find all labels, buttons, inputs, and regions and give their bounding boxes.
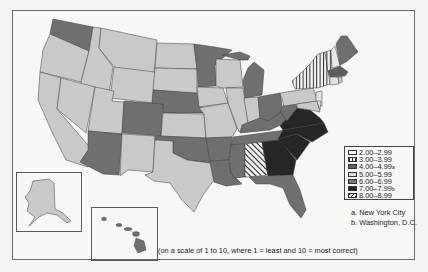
legend-swatch-2 — [348, 150, 357, 155]
alaska-inset — [16, 172, 82, 232]
state-ak — [17, 173, 81, 231]
state-az — [80, 131, 122, 175]
legend-label: 8.00–8.99 — [359, 192, 392, 199]
state-ny — [292, 52, 330, 89]
state-nm — [120, 134, 155, 176]
legend-swatch-7 — [348, 186, 357, 191]
state-me — [336, 36, 358, 65]
state-wi — [216, 59, 243, 88]
footnotes: a. New York City b. Washington, D.C. — [351, 208, 417, 228]
footnote-b: b. Washington, D.C. — [351, 218, 417, 228]
state-ms — [229, 144, 245, 178]
state-ri — [338, 77, 342, 83]
scale-note: (on a scale of 1 to 10, where 1 = least … — [158, 246, 358, 255]
hawaii-inset — [91, 207, 158, 261]
state-fl — [249, 175, 306, 218]
map-legend: 2.00–2.99 3.00–3.99 4.00–4.99a 5.00–5.99… — [344, 146, 414, 200]
legend-swatch-5 — [348, 172, 357, 177]
state-co — [122, 101, 163, 136]
legend-swatch-6 — [348, 179, 357, 184]
state-ar — [206, 137, 232, 161]
state-sd — [153, 68, 197, 94]
footnote-a: a. New York City — [351, 208, 417, 218]
state-nd — [155, 43, 197, 69]
legend-swatch-4 — [348, 164, 357, 169]
legend-item: 8.00–8.99 — [348, 192, 410, 199]
state-wy — [110, 67, 155, 103]
legend-swatch-3 — [348, 157, 357, 162]
legend-swatch-8 — [348, 193, 357, 198]
state-hi — [92, 208, 157, 260]
state-ct — [330, 77, 339, 85]
state-ks — [161, 113, 206, 138]
